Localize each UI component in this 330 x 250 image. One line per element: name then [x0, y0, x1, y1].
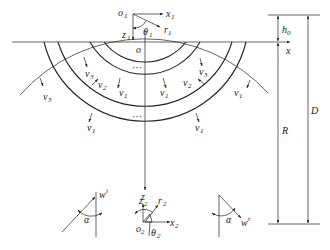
label-v2-right: v2 — [183, 77, 192, 90]
label-v3-right: v3 — [199, 66, 208, 79]
svg-text:1: 1 — [92, 127, 96, 135]
svg-text:1: 1 — [239, 92, 243, 100]
label-v2-left: v2 — [98, 79, 107, 92]
label-R: R — [281, 125, 288, 136]
svg-text:2: 2 — [157, 232, 161, 240]
label-v3-left-inner: v3 — [85, 68, 94, 81]
svg-text:z: z — [121, 29, 126, 40]
svg-text:θ: θ — [151, 227, 156, 238]
svg-text:1: 1 — [149, 31, 153, 39]
label-wr: wr — [241, 215, 251, 228]
label-alpha-right: α — [226, 214, 232, 225]
svg-text:1: 1 — [168, 29, 172, 37]
svg-text:1: 1 — [165, 92, 169, 100]
svg-text:3: 3 — [89, 73, 94, 81]
ellipsis-inner: ··· — [132, 62, 142, 73]
svg-text:1: 1 — [200, 127, 204, 135]
label-o1: o1 — [118, 7, 128, 20]
svg-text:2: 2 — [103, 84, 107, 92]
svg-text:0: 0 — [287, 29, 291, 37]
svg-text:1: 1 — [171, 13, 175, 21]
theta2-line — [149, 222, 150, 236]
ellipsis-outer: ··· — [132, 111, 142, 122]
label-r1: r1 — [164, 24, 172, 37]
svg-text:i: i — [106, 187, 108, 195]
label-o2: o2 — [136, 223, 145, 236]
alpha-arc-right — [212, 208, 235, 216]
label-theta2: θ2 — [151, 227, 161, 240]
svg-text:r: r — [158, 195, 162, 206]
theta2-arc — [135, 209, 153, 214]
svg-text:o: o — [118, 7, 123, 18]
svg-text:w: w — [241, 217, 248, 228]
svg-text:w: w — [99, 189, 106, 200]
svg-text:2: 2 — [144, 200, 148, 208]
label-wi: wi — [99, 187, 108, 200]
svg-text:3: 3 — [203, 71, 208, 79]
svg-text:3: 3 — [47, 96, 52, 104]
incident-ray-left — [62, 197, 95, 232]
label-x2: x2 — [169, 217, 179, 230]
label-v1-left-inner: v1 — [119, 87, 128, 100]
svg-text:z: z — [138, 195, 143, 206]
svg-text:1: 1 — [124, 12, 128, 20]
label-h0: h0 — [282, 24, 291, 37]
label-v3-left-outer: v3 — [43, 91, 52, 104]
label-v1-left-outer: v1 — [87, 122, 96, 135]
label-r2: r2 — [158, 195, 167, 208]
label-v1-right-bottom: v1 — [195, 122, 204, 135]
label-theta1: θ1 — [143, 26, 153, 39]
svg-text:2: 2 — [141, 228, 145, 236]
label-v1-right-inner: v1 — [160, 87, 169, 100]
svg-text:2: 2 — [175, 222, 179, 230]
label-x: x — [285, 45, 291, 56]
wave-diagram: o1 x1 r1 θ1 z1 o x ··· ··· v3 v3 v2 v1 v… — [0, 0, 330, 250]
label-D: D — [310, 105, 319, 116]
label-o: o — [136, 44, 141, 55]
svg-text:1: 1 — [127, 34, 131, 42]
svg-text:r: r — [248, 215, 251, 223]
svg-text:1: 1 — [124, 92, 128, 100]
svg-text:θ: θ — [143, 26, 148, 37]
label-x1: x1 — [165, 8, 175, 21]
svg-text:2: 2 — [188, 82, 192, 90]
svg-text:2: 2 — [163, 200, 167, 208]
label-alpha-left: α — [84, 214, 90, 225]
o2-triangle — [143, 214, 152, 222]
label-v1-right-outer: v1 — [234, 87, 243, 100]
